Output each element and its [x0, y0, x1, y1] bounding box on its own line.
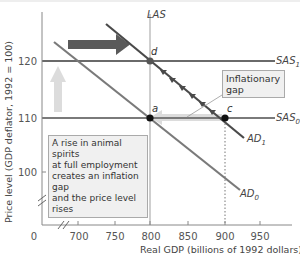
point-d-marker — [146, 57, 153, 64]
gap-text-line1: Inflationary — [226, 73, 281, 84]
x-ticks — [78, 221, 260, 225]
ad1-label: AD1 — [246, 133, 266, 147]
y-tick-110-label: 110 — [18, 113, 37, 124]
x-tick-0-label: 0 — [31, 231, 37, 242]
point-a-label: a — [152, 103, 158, 114]
x-tick-850-label: 850 — [178, 231, 197, 242]
chart: LAS d a c SAS1 SAS0 AD1 AD0 — [0, 0, 300, 254]
note-line1: A rise in animal spirits — [52, 138, 144, 160]
price-rise-arrow — [50, 66, 66, 112]
note-line2: at full employment — [52, 160, 144, 171]
y-tick-100-label: 100 — [18, 167, 37, 178]
x-axis-title: Real GDP (billions of 1992 dollars) — [140, 244, 300, 254]
ad0-label: AD0 — [239, 188, 260, 202]
y-axis-title: Price level (GDP deflator, 1992 = 100) — [3, 41, 14, 223]
sas1-label: SAS1 — [276, 55, 300, 69]
x-tick-950-label: 950 — [250, 231, 269, 242]
x-tick-800-label: 800 — [141, 231, 160, 242]
y-tick-120-label: 120 — [18, 56, 37, 67]
point-a-marker — [146, 114, 153, 121]
explanation-note: A rise in animal spirits at full employm… — [48, 135, 148, 218]
inflationary-gap-callout: Inflationary gap — [222, 70, 285, 98]
note-line3: creates an inflation gap — [52, 171, 144, 193]
x-tick-900-label: 900 — [215, 231, 234, 242]
x-tick-700-label: 700 — [69, 231, 88, 242]
sas0-label: SAS0 — [276, 112, 300, 126]
point-d-label: d — [151, 46, 158, 57]
las-label: LAS — [147, 9, 166, 20]
x-tick-750-label: 750 — [105, 231, 124, 242]
point-c-label: c — [227, 103, 233, 114]
gap-text-line2: gap — [226, 84, 281, 95]
note-line4: and the price level rises — [52, 193, 144, 215]
point-c-marker — [221, 114, 228, 121]
